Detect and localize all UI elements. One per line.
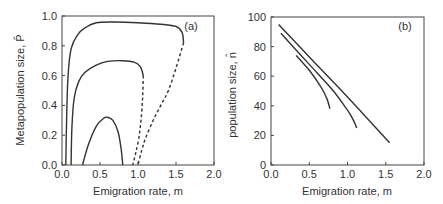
y-tick-label: 0.6 (42, 70, 57, 82)
panel-a-label: (a) (184, 20, 197, 32)
series-top (279, 24, 390, 142)
x-tick-label: 1.5 (168, 168, 183, 180)
series-middle (281, 33, 357, 128)
y-tick-label: 20 (254, 129, 266, 141)
y-tick-label: 0.0 (42, 159, 57, 171)
panel-a-ylabel: Metapopulation size, P̂ (13, 34, 26, 145)
x-tick-label: 0.5 (92, 168, 107, 180)
x-tick-label: 2.0 (416, 168, 431, 180)
panel-a: 0.00.51.01.52.00.00.20.40.60.81.0 (a) Em… (13, 10, 221, 197)
series-outer-unstable (138, 43, 184, 165)
panel-b-series (279, 24, 390, 142)
y-tick-label: 100 (248, 11, 266, 23)
y-tick-label: 0.2 (42, 129, 57, 141)
panel-b-ylabel: population size, n̂ (225, 52, 238, 138)
panel-b-label: (b) (398, 20, 411, 32)
panel-b-frame (271, 17, 424, 165)
panel-b: 0.00.51.01.52.0020406080100 (b) Emigrati… (225, 11, 431, 197)
series-inner (83, 117, 123, 165)
series-middle-stable (71, 61, 143, 165)
y-tick-label: 80 (254, 41, 266, 53)
y-tick-label: 60 (254, 70, 266, 82)
x-tick-label: 0.5 (302, 168, 317, 180)
panel-a-series (66, 22, 184, 165)
panel-b-ticks: 0.00.51.01.52.0020406080100 (248, 11, 432, 180)
series-outer-stable (66, 22, 184, 165)
y-tick-label: 0.8 (42, 40, 57, 52)
x-tick-label: 1.5 (378, 168, 393, 180)
y-tick-label: 40 (254, 100, 266, 112)
y-tick-label: 0.4 (42, 99, 57, 111)
y-tick-label: 1.0 (42, 10, 57, 22)
panel-b-xlabel: Emigration rate, m (302, 185, 392, 197)
panel-a-xlabel: Emigration rate, m (93, 185, 183, 197)
x-tick-label: 2.0 (206, 168, 221, 180)
x-tick-label: 1.0 (340, 168, 355, 180)
x-tick-label: 1.0 (130, 168, 145, 180)
figure: 0.00.51.01.52.00.00.20.40.60.81.0 (a) Em… (0, 0, 443, 204)
panel-a-ticks: 0.00.51.01.52.00.00.20.40.60.81.0 (42, 10, 222, 180)
y-tick-label: 0 (260, 159, 266, 171)
